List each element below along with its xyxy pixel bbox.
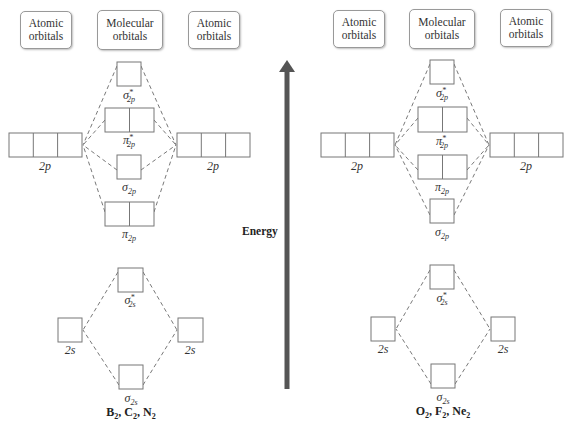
- header-line: Atomic: [334, 16, 384, 29]
- header-line: Atomic: [501, 15, 551, 28]
- energy-axis-label: Energy: [242, 225, 278, 237]
- label-sigma-star-2p-left: σ*2p: [123, 88, 135, 104]
- label-2s-left-atom-right-panel: 2s: [378, 342, 389, 357]
- label-2p-left-atom: 2p: [39, 159, 51, 174]
- header-line: Atomic: [189, 17, 239, 30]
- header-line: orbitals: [21, 30, 71, 43]
- header-atomic-orbitals-left-1: Atomic orbitals: [20, 11, 72, 49]
- header-line: orbitals: [501, 28, 551, 41]
- label-sigma-2p-left: σ2p: [122, 180, 136, 196]
- label-2p-right-atom: 2p: [207, 159, 219, 174]
- header-line: Atomic: [21, 17, 71, 30]
- header-line: Molecular: [410, 16, 474, 29]
- label-2s-right-atom-right-panel: 2s: [498, 342, 509, 357]
- label-2s-left-atom: 2s: [65, 343, 76, 358]
- label-sigma-star-2p-right: σ*2p: [436, 86, 448, 102]
- label-sigma-2p-right: σ2p: [435, 225, 449, 241]
- label-2s-right-atom: 2s: [185, 343, 196, 358]
- header-line: orbitals: [189, 30, 239, 43]
- label-2p-right-atom-right-panel: 2p: [520, 159, 532, 174]
- header-line: Molecular: [98, 17, 162, 30]
- header-atomic-orbitals-right-2: Atomic orbitals: [500, 9, 552, 47]
- label-pi-star-2p-right: π*2p: [436, 134, 448, 150]
- label-sigma-star-2s-right: σ*2s: [436, 291, 447, 307]
- header-molecular-orbitals-left: Molecular orbitals: [97, 10, 163, 50]
- label-pi-star-2p-left: π*2p: [123, 133, 135, 149]
- header-line: orbitals: [98, 30, 162, 43]
- label-pi-2p-left: π2p: [122, 227, 136, 243]
- orbital-boxes-left: [9, 62, 250, 389]
- header-line: orbitals: [334, 29, 384, 42]
- header-atomic-orbitals-left-2: Atomic orbitals: [188, 11, 240, 49]
- mo-diagram-canvas: [0, 0, 571, 425]
- header-atomic-orbitals-right-1: Atomic orbitals: [333, 10, 385, 48]
- header-line: orbitals: [410, 29, 474, 42]
- species-label-left: B2, C2, N2: [106, 405, 155, 421]
- label-sigma-star-2s-left: σ*2s: [124, 293, 135, 309]
- label-2p-left-atom-right-panel: 2p: [351, 159, 363, 174]
- header-molecular-orbitals-right: Molecular orbitals: [409, 9, 475, 49]
- label-pi-2p-right: π2p: [435, 180, 449, 196]
- species-label-right: O2, F2, Ne2: [416, 404, 471, 420]
- orbital-boxes-right: [321, 60, 563, 388]
- energy-arrow: [279, 60, 295, 389]
